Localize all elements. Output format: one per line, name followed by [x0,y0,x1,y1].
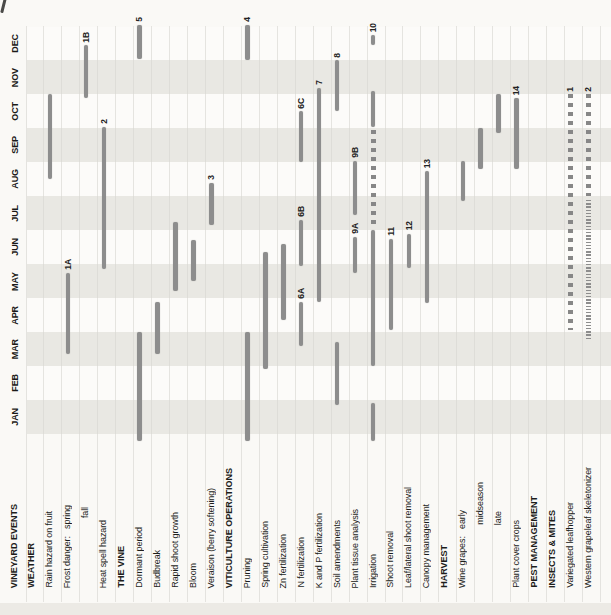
row-label-midseason: midseason [476,482,485,525]
marker-wrap-n-fertilization-6A: 6A [294,272,308,299]
marker-wrap-variegated-leafhopper-1: 1 [563,64,577,91]
month-label-jun: JUN [11,238,20,256]
bar-western-grapeleaf-skeletonizer-seg2 [586,94,591,196]
row-label-pruning: Pruning [243,558,252,588]
bar-dormant-period-seg1 [137,332,142,441]
bar-plant-tissue-analysis-seg1 [353,237,358,273]
marker-wrap-n-fertilization-6B: 6B [294,190,308,217]
month-label-wrap-oct: OCT [4,94,26,128]
bar-pruning-seg2 [245,25,250,61]
bar-marker-10: 10 [369,23,378,32]
row-label-viticulture-operations: VITICULTURE OPERATIONS [225,468,234,588]
bar-marker-3: 3 [207,175,216,180]
marker-wrap-canopy-management-13: 13 [420,141,434,168]
marker-wrap-plant-tissue-analysis-9B: 9B [348,131,362,158]
row-label-wrap-k-and-p-fertilization: K and P fertilization [312,446,327,588]
bar-rain-hazard-on-fruit-seg1 [48,94,53,179]
month-label-mar: MAR [11,339,20,359]
row-label-wrap-the-vine: THE VINE [114,446,129,588]
row-label-late: late [494,511,503,525]
month-label-jul: JUL [11,205,20,222]
row-label-wrap-late: late [491,446,506,525]
bar-irrigation-seg1 [371,403,376,440]
month-label-jan: JAN [11,408,20,426]
bar-n-fertilization-seg2 [299,220,304,266]
row-label-wrap-rapid-shoot-growth: Rapid shoot growth [168,446,183,588]
month-label-wrap-apr: APR [4,298,26,332]
row-label-plant-cover-crops: Plant cover crops [512,520,521,588]
marker-wrap-leaf-lateral-shoot-removal-12: 12 [402,204,416,231]
row-label-wrap-veraison-berry-softening: Veraison (berry softening) [204,446,219,588]
row-label-wrap-fall: fall [78,446,93,518]
bar-wine-grapes-early-seg1 [461,161,466,202]
row-label-wrap-n-fertilization: N fertilization [294,446,309,588]
bar-shoot-removal-seg1 [389,239,394,331]
bar-canopy-management-seg1 [425,171,430,303]
month-label-wrap-nov: NOV [4,60,26,94]
row-label-wrap-budbreak: Budbreak [150,446,165,588]
bar-pruning-seg1 [245,332,250,441]
row-label-insects-mites: INSECTS & MITES [548,510,557,588]
month-label-dec: DEC [11,34,20,53]
row-label-variegated-leafhopper: Variegated leafhopper [566,502,575,588]
bar-irrigation-seg5 [371,35,376,45]
bar-midseason-seg1 [478,128,483,169]
month-label-sep: SEP [11,136,20,154]
month-label-nov: NOV [11,68,20,87]
marker-wrap-shoot-removal-11: 11 [384,209,398,236]
row-label-harvest: HARVEST [440,545,449,588]
bar-spring-cultivation-seg1 [263,252,268,369]
row-label-wrap-soil-amendments: Soil amendments [330,446,345,588]
bar-irrigation-seg2 [371,230,376,366]
bar-n-fertilization-seg3 [299,111,304,162]
month-label-aug: AUG [11,169,20,189]
bar-marker-2: 2 [100,119,109,124]
row-label-wrap-plant-tissue-analysis: Plant tissue analysis [348,446,363,588]
page-edge-shadow [0,603,611,615]
marker-wrap-heat-spell-hazard-2: 2 [97,97,111,124]
bar-leaf-lateral-shoot-removal-seg1 [407,234,412,268]
bar-marker-6A: 6A [297,288,306,299]
row-label-bloom: Bloom [189,563,198,588]
row-label-veraison-berry-softening: Veraison (berry softening) [207,488,216,588]
row-label-canopy-management: Canopy management [422,504,431,588]
bar-n-fertilization-seg1 [299,302,304,346]
row-label-zn-fertilization: Zn fertilization [279,534,288,588]
bar-late-seg1 [496,94,501,133]
row-label-wrap-canopy-management: Canopy management [419,446,434,588]
vineyard-events-calendar-chart: JANFEBMARAPRMAYJUNJULAUGSEPOCTNOVDECVINE… [0,0,611,615]
bar-marker-12: 12 [405,221,414,230]
marker-wrap-fall-1B: 1B [79,15,93,42]
bar-marker-2: 2 [584,87,593,92]
marker-wrap-plant-cover-crops-14: 14 [510,68,524,95]
bar-heat-spell-hazard-seg1 [102,127,107,270]
bar-marker-14: 14 [512,86,521,95]
row-label-wrap-harvest: HARVEST [437,446,452,588]
row-label-heat-spell-hazard: Heat spell hazard [99,520,108,588]
row-label-wrap-wine-grapes-early: Wine grapes: early [455,446,470,588]
row-label-wrap-spring-cultivation: Spring cultivation [258,446,273,588]
row-label-irrigation: Irrigation [369,554,378,588]
row-label-spring-cultivation: Spring cultivation [261,521,270,588]
bar-marker-5: 5 [135,17,144,22]
row-label-wrap-pruning: Pruning [240,446,255,588]
bar-zn-fertilization-seg1 [281,244,286,320]
bar-soil-amendments-seg1 [335,342,340,405]
bar-marker-11: 11 [387,227,396,236]
gridline [600,26,601,602]
row-label-rain-hazard-on-fruit: Rain hazard on fruit [45,511,54,588]
row-label-wrap-zn-fertilization: Zn fertilization [276,446,291,588]
bar-marker-8: 8 [333,53,342,58]
month-label-wrap-aug: AUG [4,162,26,196]
month-label-may: MAY [11,272,20,291]
bar-veraison-berry-softening-seg1 [209,183,214,225]
bar-marker-1: 1 [566,87,575,92]
row-label-wrap-vineyard-events: VINEYARD EVENTS [7,446,22,588]
month-label-wrap-feb: FEB [4,366,26,400]
row-label-wrap-pest-management: PEST MANAGEMENT [527,446,542,588]
row-label-soil-amendments: Soil amendments [333,520,342,588]
month-label-wrap-jan: JAN [4,400,26,434]
month-label-wrap-jun: JUN [4,230,26,264]
bar-marker-1B: 1B [82,32,91,43]
marker-wrap-k-and-p-fertilization-7: 7 [312,58,326,85]
